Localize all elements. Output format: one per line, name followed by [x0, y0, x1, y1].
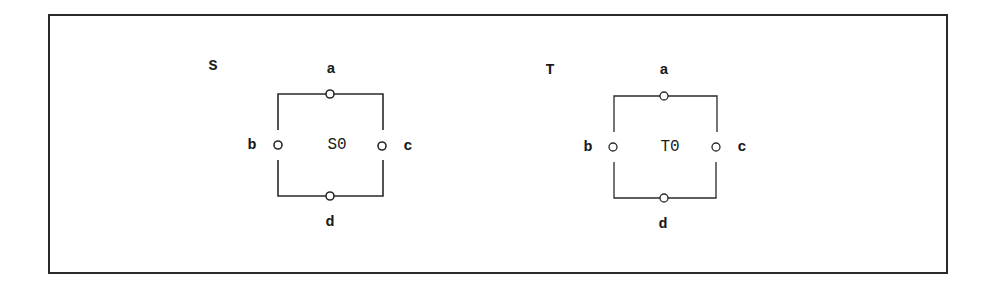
- component-name-label: T: [545, 63, 554, 78]
- instance-label: T0: [660, 139, 679, 155]
- port-c-icon: [378, 142, 386, 150]
- port-a-icon: [326, 90, 334, 98]
- port-label-left: b: [247, 138, 256, 153]
- port-label-right: c: [737, 140, 746, 155]
- port-label-right: c: [403, 139, 412, 154]
- port-label-bottom: d: [658, 217, 667, 232]
- component-name-label: S: [208, 59, 217, 74]
- port-b-icon: [274, 141, 282, 149]
- port-label-top: a: [326, 62, 335, 77]
- port-a-icon: [660, 92, 668, 100]
- port-label-bottom: d: [325, 215, 334, 230]
- port-c-icon: [712, 143, 720, 151]
- port-d-icon: [326, 192, 334, 200]
- port-label-left: b: [583, 140, 592, 155]
- diagram-canvas: [0, 0, 988, 292]
- port-d-icon: [660, 194, 668, 202]
- instance-label: S0: [327, 137, 346, 153]
- port-label-top: a: [659, 63, 668, 78]
- port-b-icon: [609, 143, 617, 151]
